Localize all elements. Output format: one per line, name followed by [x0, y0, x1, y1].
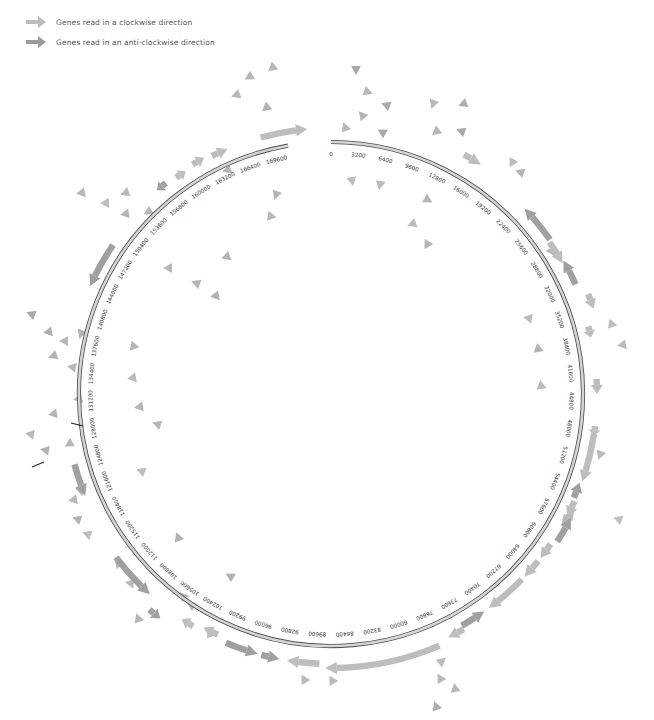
triangle-marker [406, 218, 418, 230]
triangle-marker [66, 361, 77, 372]
tick-label: 124800 [93, 444, 104, 467]
tick-label: 57600 [537, 497, 551, 516]
triangle-marker [535, 379, 546, 390]
gene-body [530, 215, 553, 241]
tick-label: 80000 [389, 619, 408, 630]
tick-label: 6400 [378, 155, 394, 164]
triangle-marker [374, 180, 385, 191]
triangle-marker [375, 125, 388, 138]
triangle-marker [81, 528, 93, 540]
triangle-marker [47, 408, 58, 419]
triangle-marker [151, 418, 163, 430]
triangle-marker [455, 125, 467, 137]
triangle-marker [457, 98, 469, 110]
triangle-marker [505, 157, 518, 170]
triangle-marker [325, 673, 338, 686]
gene-arrowhead [589, 429, 601, 435]
ring-fill [79, 142, 583, 646]
triangle-marker [612, 513, 624, 525]
triangle-marker [259, 102, 272, 115]
tick-label: 166400 [239, 161, 262, 174]
tick-label: 38400 [562, 337, 572, 356]
triangle-marker [355, 108, 368, 121]
triangle-marker [67, 494, 78, 505]
gene-body [566, 269, 578, 286]
triangle-marker [436, 654, 449, 667]
triangle-marker [346, 176, 357, 187]
triangle-marker [429, 126, 442, 139]
triangle-marker [427, 99, 439, 111]
triangle-marker [263, 211, 276, 224]
tick-label: 169600 [265, 154, 288, 165]
tick-label: 73600 [440, 596, 459, 610]
tick-label: 92800 [280, 626, 299, 635]
gene-body [260, 127, 297, 140]
tick-labels: 0320064009600128001600019200224002560028… [87, 151, 574, 638]
tick-label: 54400 [549, 472, 561, 491]
tick-label: 44800 [568, 392, 575, 410]
tick-label: 86400 [335, 631, 354, 638]
tick-label: 163200 [214, 171, 236, 186]
triangle-marker [514, 166, 526, 178]
triangle-marker [39, 444, 50, 455]
tick-label: 118400 [110, 495, 125, 517]
tick-label: 140800 [96, 308, 108, 331]
triangle-marker [430, 700, 442, 712]
tick-label: 9600 [404, 162, 420, 173]
tick-label: 96000 [253, 619, 272, 630]
triangle-marker [223, 569, 236, 582]
tick-label: 128000 [88, 417, 97, 439]
triangle-marker [616, 339, 627, 350]
triangle-marker [339, 121, 351, 133]
triangle-marker [190, 277, 202, 289]
genome-map: 0320064009600128001600019200224002560028… [0, 0, 654, 720]
marker-lines [32, 423, 83, 467]
gene-arrowhead [287, 656, 299, 668]
tick-label: 32000 [543, 285, 556, 304]
gene-body [593, 379, 600, 385]
triangle-marker [133, 401, 144, 412]
triangle-marker [380, 99, 392, 111]
triangle-marker [422, 194, 435, 207]
tick-label: 51200 [558, 446, 568, 465]
tick-label: 35200 [554, 310, 565, 329]
tick-label: 144000 [105, 283, 120, 305]
gene-body [298, 659, 320, 667]
tick-label: 83200 [362, 626, 381, 635]
ring-outline [79, 142, 583, 646]
triangle-marker [126, 341, 139, 354]
triangle-marker [230, 89, 242, 101]
marker-line [32, 462, 44, 467]
triangle-marker [75, 187, 86, 198]
triangle-marker [242, 71, 255, 84]
tick-label: 131200 [87, 390, 94, 412]
triangle-marker [135, 465, 147, 477]
triangle-marker [25, 308, 37, 320]
tick-label: 147200 [117, 259, 133, 281]
tick-label: 16000 [452, 184, 471, 199]
tick-label: 28800 [530, 261, 545, 280]
tick-label: 0 [329, 151, 333, 157]
gene-body [261, 652, 270, 660]
gene-body [71, 464, 84, 487]
triangle-marker [594, 450, 606, 462]
gene-body [225, 640, 248, 654]
triangle-marker [100, 198, 109, 208]
triangle-marker [532, 342, 543, 353]
tick-label: 150400 [132, 237, 150, 258]
triangle-marker [351, 66, 361, 75]
triangle-marker [163, 263, 172, 273]
triangle-marker [220, 251, 232, 263]
triangle-marker [209, 290, 220, 301]
tick-label: 99200 [228, 609, 247, 622]
tick-label: 102400 [202, 595, 224, 611]
triangle-marker [119, 187, 131, 199]
triangle-marker [24, 428, 35, 439]
scatter-triangles [24, 62, 627, 712]
triangle-marker [119, 208, 130, 219]
tick-label: 19200 [474, 200, 492, 216]
tick-label: 89600 [308, 631, 327, 638]
gene-arrowhead [325, 662, 337, 674]
triangle-marker [132, 612, 144, 624]
tick-label: 121600 [100, 470, 113, 492]
